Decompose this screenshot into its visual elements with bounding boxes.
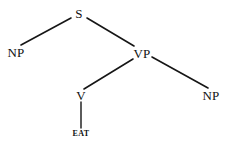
- tree-node-vp: VP: [133, 47, 150, 60]
- tree-node-np-object: NP: [202, 89, 219, 102]
- tree-leaf-eat: EAT: [73, 130, 90, 138]
- edge-vp-np2: [152, 57, 208, 88]
- tree-node-np-subject: NP: [7, 46, 24, 59]
- tree-edges: [0, 0, 228, 154]
- edge-s-np1: [21, 18, 71, 45]
- syntax-tree-canvas: S NP VP V NP EAT: [0, 0, 228, 154]
- edge-vp-v: [84, 59, 133, 89]
- tree-node-s: S: [75, 7, 82, 20]
- edge-s-vp: [87, 18, 134, 46]
- tree-node-v: V: [76, 89, 86, 102]
